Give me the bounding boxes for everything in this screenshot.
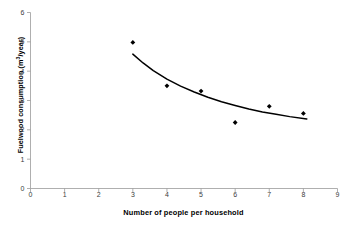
data-point-marker: [165, 83, 170, 88]
x-tick-label: 9: [330, 191, 346, 198]
x-tick-label: 4: [159, 191, 175, 198]
data-point-markers: [130, 40, 305, 125]
x-tick-label: 5: [193, 191, 209, 198]
y-tick-label: 6: [13, 8, 25, 17]
data-point-marker: [130, 40, 135, 45]
x-tick-label: 2: [91, 191, 107, 198]
y-tick-label: 5: [13, 37, 25, 46]
data-point-marker: [267, 104, 272, 109]
y-tick-label: 2: [13, 125, 25, 134]
y-tick-label: 3: [13, 96, 25, 105]
trend-curve: [133, 54, 307, 119]
tick-marks: [27, 13, 338, 193]
y-tick-label: 0: [13, 184, 25, 193]
x-tick-label: 8: [295, 191, 311, 198]
chart-container: Fuelwood consumption (m3/year) Number of…: [0, 0, 349, 230]
data-point-marker: [233, 120, 238, 125]
y-tick-label: 1: [13, 155, 25, 164]
data-point-marker: [199, 89, 204, 94]
x-tick-label: 7: [261, 191, 277, 198]
x-tick-label: 1: [57, 191, 73, 198]
x-tick-label: 0: [23, 191, 39, 198]
x-tick-label: 6: [227, 191, 243, 198]
y-tick-label: 4: [13, 67, 25, 76]
x-tick-label: 3: [125, 191, 141, 198]
data-point-marker: [301, 111, 306, 116]
axis-lines: [31, 13, 338, 189]
trend-curve-path: [133, 54, 307, 119]
